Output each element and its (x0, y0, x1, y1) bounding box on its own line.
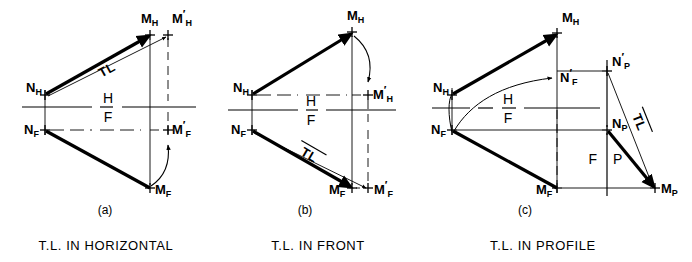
panel-c-point-ticks (447, 28, 660, 193)
label-point-c-3: NF (431, 122, 446, 139)
panel-b-ref-label-f: F (307, 112, 316, 128)
panel-c-ref-label-f-profile: F (588, 151, 597, 167)
label-point-b-0: NH (233, 80, 249, 97)
panel-b-rotation-arrow (354, 36, 370, 82)
panel-c-ref-label-h: H (503, 91, 513, 107)
panel-b-horizontal-view-line (253, 34, 351, 94)
panel-c: NH MH N′F NF MF N′P NP MP H (431, 10, 678, 253)
panel-b: NH MH M′H NF MF M′F H F TL (b) (228, 8, 396, 253)
panel-c-horizontal-view-line (453, 35, 556, 94)
label-point-a-5: M′F (172, 119, 191, 139)
panel-a-ref-label-f: F (104, 109, 113, 125)
panel-a-rotation-arrow (151, 145, 168, 186)
label-point-a-4: MF (155, 182, 172, 199)
svg-text:TL: TL (298, 144, 320, 165)
label-point-a-0: NH (26, 80, 42, 97)
panel-c-ref-label-f: F (504, 110, 513, 126)
label-point-a-3: NF (24, 122, 39, 139)
panel-b-caption: T.L. IN FRONT (271, 238, 365, 253)
label-point-b-4: MF (329, 182, 346, 199)
panel-b-id: (b) (298, 203, 313, 217)
panel-a-ref-label-h: H (103, 90, 113, 106)
descriptive-geometry-drawing: NH MH M′H NF MF M′F H F TL (0, 0, 692, 262)
panel-a-id: (a) (98, 203, 113, 217)
label-point-c-1: MH (562, 10, 579, 27)
label-point-c-7: MP (661, 181, 678, 198)
label-point-a-2: M′H (172, 8, 192, 28)
panel-a: NH MH M′H NF MF M′F H F TL (22, 8, 196, 253)
panel-a-caption: T.L. IN HORIZONTAL (39, 238, 174, 253)
label-point-b-3: NF (231, 122, 246, 139)
label-point-b-5: M′F (374, 179, 393, 199)
label-point-c-2: N′F (560, 67, 578, 87)
panel-c-caption: T.L. IN PROFILE (490, 238, 596, 253)
label-point-b-1: MH (347, 8, 364, 25)
panel-c-id: (c) (518, 203, 532, 217)
panel-c-front-view-line (453, 131, 557, 188)
panel-b-ref-label-h: H (306, 93, 316, 109)
panel-c-ref-label-p-profile: P (613, 151, 622, 167)
panel-a-front-view-line (46, 131, 150, 188)
panel-c-tl-label: TL (627, 107, 652, 138)
label-point-a-1: MH (141, 11, 158, 28)
technical-drawing-figure: NH MH M′H NF MF M′F H F TL (0, 0, 692, 262)
label-point-c-5: N′P (612, 51, 630, 71)
label-point-b-2: M′H (373, 84, 393, 104)
label-point-c-0: NH (433, 80, 449, 97)
panel-a-tl-label: TL (90, 55, 123, 83)
label-point-c-6: NP (612, 116, 627, 133)
svg-text:TL: TL (629, 111, 649, 132)
